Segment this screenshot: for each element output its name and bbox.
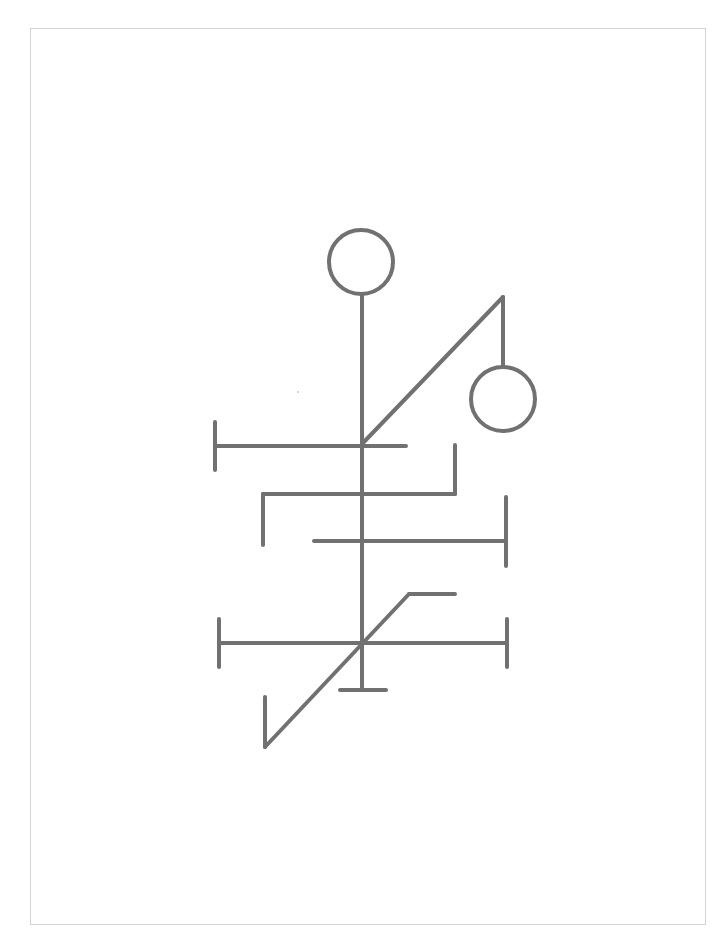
glyph-strokes [215,230,535,747]
lower-diagonal-line [265,594,409,747]
scan-speck [297,391,299,393]
top-circle [329,230,393,294]
sigil-glyph [0,0,725,952]
right-circle [471,367,535,431]
